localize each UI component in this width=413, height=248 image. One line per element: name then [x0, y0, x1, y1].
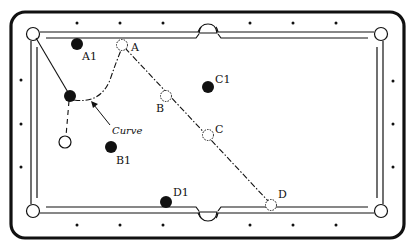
diamond: [119, 22, 122, 25]
label-a: A: [130, 41, 140, 54]
ghost-ball-c: [203, 130, 214, 141]
diamond: [335, 224, 338, 227]
label-d1: D1: [173, 186, 189, 199]
diamond: [119, 224, 122, 227]
pocket-top-left: [27, 28, 40, 41]
diamond: [249, 224, 252, 227]
diamond: [392, 166, 395, 169]
label-a1: A1: [81, 50, 97, 63]
label-c1: C1: [215, 73, 230, 86]
ball-c1: [202, 81, 214, 93]
ball-contact: [64, 90, 76, 102]
pocket-bottom-right: [375, 205, 388, 218]
diamond: [76, 224, 79, 227]
ball-a1: [71, 38, 83, 50]
cue-ball-white: [59, 136, 71, 148]
label-d: D: [278, 188, 287, 201]
diamond: [76, 22, 79, 25]
diamond: [20, 79, 23, 82]
diamond: [292, 224, 295, 227]
ball-d1: [160, 196, 172, 208]
diamond: [392, 80, 395, 83]
diamond: [162, 224, 165, 227]
ball-b1: [105, 141, 117, 153]
table-outer-frame: [11, 12, 404, 238]
diamond: [20, 123, 23, 126]
label-b: B: [156, 102, 164, 115]
diamond: [20, 166, 23, 169]
pocket-bottom-left: [27, 205, 40, 218]
diamond: [249, 22, 252, 25]
diamond: [292, 22, 295, 25]
pocket-top-right: [375, 28, 388, 41]
diamond: [392, 123, 395, 126]
label-b1: B1: [116, 154, 131, 167]
ghost-ball-d: [266, 200, 277, 211]
ghost-ball-b: [161, 91, 172, 102]
curve-label: Curve: [112, 125, 143, 136]
label-c: C: [215, 123, 223, 136]
diamond: [335, 22, 338, 25]
ghost-ball-a: [117, 40, 128, 51]
diamond: [162, 22, 165, 25]
billiards-diagram: Curve A1 A B C D B1 C1 D1: [0, 0, 413, 248]
